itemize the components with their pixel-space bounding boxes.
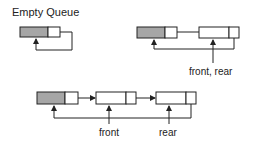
empty-queue-panel bbox=[20, 27, 72, 50]
header-node-data bbox=[20, 27, 48, 37]
header-node-link bbox=[65, 92, 78, 104]
node1-data bbox=[96, 92, 126, 104]
header-node-link bbox=[48, 27, 60, 37]
two-element-panel bbox=[37, 92, 196, 124]
header-node-link bbox=[165, 27, 177, 38]
circular-link-arrow bbox=[154, 38, 234, 49]
queue-diagram bbox=[0, 0, 258, 148]
one-element-panel bbox=[137, 27, 239, 63]
node-link bbox=[229, 27, 239, 38]
node1-link bbox=[126, 92, 136, 104]
node2-link bbox=[186, 92, 196, 104]
circular-link-arrow bbox=[54, 104, 191, 118]
node2-data bbox=[156, 92, 186, 104]
header-node-data bbox=[137, 27, 165, 38]
header-node-data bbox=[37, 92, 65, 104]
node-data bbox=[199, 27, 229, 38]
